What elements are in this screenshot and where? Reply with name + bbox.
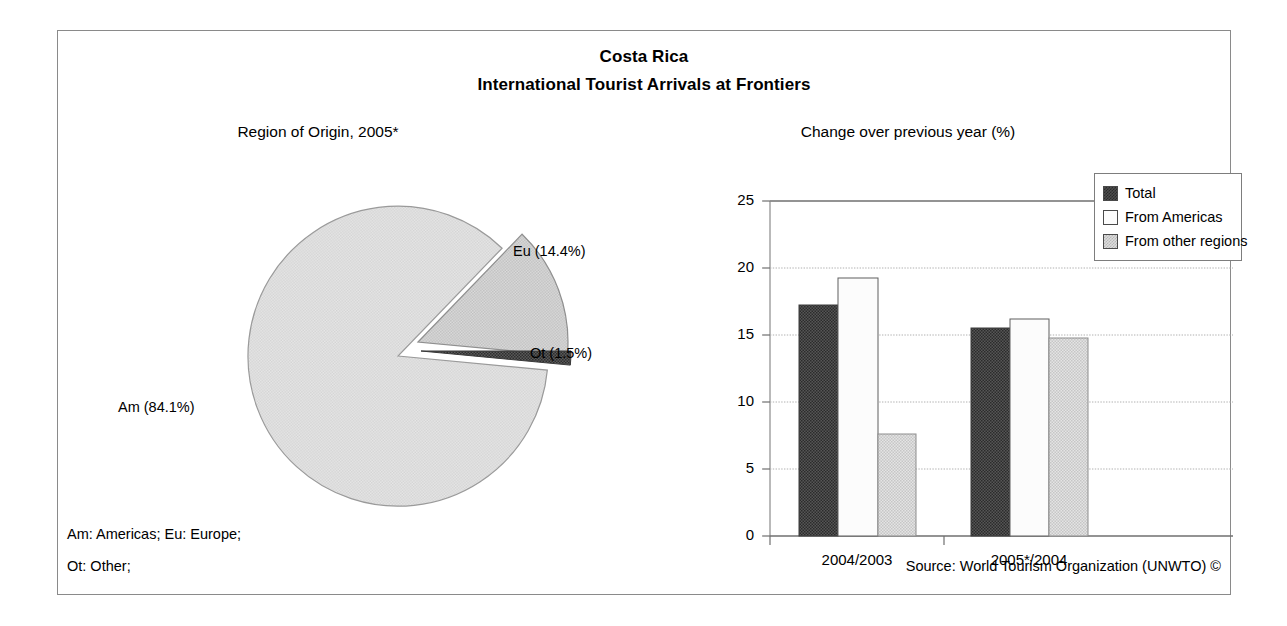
bar-other-g1 [878,434,916,536]
source-note: Source: World Tourism Organization (UNWT… [906,558,1221,574]
legend-item-from-americas: From Americas [1103,205,1234,229]
chart-figure: Costa Rica International Tourist Arrival… [57,30,1231,595]
legend-label-from-other-regions: From other regions [1125,233,1248,249]
pie-chart-title: Region of Origin, 2005* [58,123,578,141]
bar-chart-title: Change over previous year (%) [628,123,1188,141]
legend-label-total: Total [1125,185,1156,201]
bar-group-2005-2004 [971,319,1088,536]
y-tick-label-15: 15 [718,325,754,342]
abbreviation-note-line2: Ot: Other; [67,558,131,574]
bar-americas-g2 [1010,319,1049,536]
legend-item-from-other-regions: From other regions [1103,229,1234,253]
page-subtitle: International Tourist Arrivals at Fronti… [58,75,1230,95]
bar-chart-legend: Total From Americas From other regions [1094,173,1242,261]
legend-label-from-americas: From Americas [1125,209,1223,225]
pie-chart-graphic [98,151,658,511]
abbreviation-note-line1: Am: Americas; Eu: Europe; [67,526,241,542]
pie-chart-panel: Eu (14.4%) Ot (1.5%) Am (84.1%) [98,151,658,511]
legend-item-total: Total [1103,181,1234,205]
pie-label-eu: Eu (14.4%) [513,243,586,259]
dark-hatch-swatch-icon [1103,186,1118,201]
white-swatch-icon [1103,210,1118,225]
y-tick-label-10: 10 [718,392,754,409]
y-tick-label-0: 0 [718,526,754,543]
y-tick-label-20: 20 [718,258,754,275]
bar-other-g2 [1049,338,1088,536]
pie-label-am: Am (84.1%) [118,399,195,415]
y-axis-ticks [762,201,770,536]
x-axis-ticks [770,536,944,545]
bar-americas-g1 [838,278,878,536]
bar-total-g2 [971,328,1010,536]
light-hatch-swatch-icon [1103,234,1118,249]
y-tick-label-25: 25 [718,191,754,208]
bar-group-2004-2003 [799,278,916,536]
bar-total-g1 [799,305,838,536]
pie-label-ot: Ot (1.5%) [530,345,592,361]
y-tick-label-5: 5 [718,459,754,476]
bar-chart-panel: 25 20 15 10 5 0 2004/2003 2005*/2004 Tot… [633,141,1233,561]
page-title: Costa Rica [58,47,1230,67]
